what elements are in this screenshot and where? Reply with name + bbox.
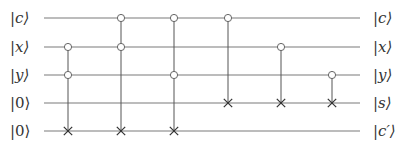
output-label: |y⟩ <box>373 66 392 84</box>
output-label: |s⟩ <box>373 94 392 112</box>
output-label: |c′⟩ <box>373 122 396 140</box>
input-label: |x⟩ <box>10 38 29 56</box>
wires <box>44 18 360 131</box>
input-label: |y⟩ <box>10 66 29 84</box>
output-labels: |c⟩|x⟩|y⟩|s⟩|c′⟩ <box>373 9 396 140</box>
control-dot-icon <box>170 14 177 21</box>
quantum-circuit-diagram: |c⟩|x⟩|y⟩|0⟩|0⟩ |c⟩|x⟩|y⟩|s⟩|c′⟩ <box>0 0 404 149</box>
input-label: |c⟩ <box>10 9 29 27</box>
control-dot-icon <box>117 43 124 50</box>
input-labels: |c⟩|x⟩|y⟩|0⟩|0⟩ <box>10 9 30 140</box>
output-label: |x⟩ <box>373 38 392 56</box>
control-dot-icon <box>117 14 124 21</box>
input-label: |0⟩ <box>10 94 30 112</box>
control-dot-icon <box>277 43 284 50</box>
control-dot-icon <box>170 71 177 78</box>
gate-toffoli-3 <box>170 14 178 135</box>
control-dot-icon <box>64 71 71 78</box>
control-dot-icon <box>328 71 335 78</box>
gate-toffoli-1 <box>64 43 72 135</box>
input-label: |0⟩ <box>10 122 30 140</box>
control-dot-icon <box>64 43 71 50</box>
output-label: |c⟩ <box>373 9 392 27</box>
gate-cnot-3 <box>328 71 336 107</box>
control-dot-icon <box>224 14 231 21</box>
gate-cnot-1 <box>224 14 232 107</box>
